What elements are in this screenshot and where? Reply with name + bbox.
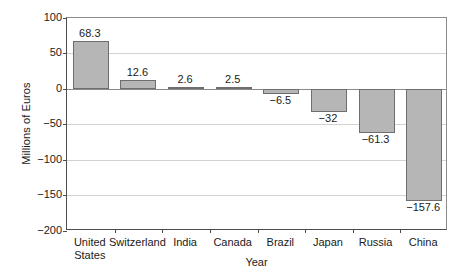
y-tick-label: 0 bbox=[26, 83, 62, 94]
x-tick-mark bbox=[400, 229, 401, 233]
bar-value-label: −157.6 bbox=[388, 201, 458, 213]
bar bbox=[406, 89, 442, 201]
x-tick-mark bbox=[115, 229, 116, 233]
x-tick-mark bbox=[162, 229, 163, 233]
plot-area bbox=[66, 17, 447, 230]
gridline bbox=[67, 53, 446, 54]
y-tick-mark bbox=[63, 124, 67, 125]
x-tick-mark bbox=[258, 229, 259, 233]
bar-value-label: −32 bbox=[293, 112, 363, 124]
y-tick-mark bbox=[63, 160, 67, 161]
x-tick-mark bbox=[305, 229, 306, 233]
y-tick-mark bbox=[63, 53, 67, 54]
y-tick-label: −200 bbox=[26, 225, 62, 236]
bar-value-label: 2.5 bbox=[198, 73, 268, 85]
gridline bbox=[67, 195, 446, 196]
y-tick-label: −150 bbox=[26, 189, 62, 200]
y-tick-label: −50 bbox=[26, 118, 62, 129]
y-tick-mark bbox=[63, 89, 67, 90]
bar-value-label: 68.3 bbox=[55, 27, 125, 39]
y-tick-mark bbox=[63, 231, 67, 232]
x-tick-mark bbox=[210, 229, 211, 233]
bar-value-label: −61.3 bbox=[341, 133, 411, 145]
x-tick-mark bbox=[353, 229, 354, 233]
bar-chart-figure: Millions of Euros 100500−50−100−150−200 … bbox=[0, 0, 465, 278]
y-tick-label: 100 bbox=[26, 12, 62, 23]
y-tick-mark bbox=[63, 18, 67, 19]
y-tick-label: 50 bbox=[26, 47, 62, 58]
bar bbox=[359, 89, 395, 133]
x-tick-label-line: China bbox=[409, 236, 438, 248]
gridline bbox=[67, 160, 446, 161]
y-tick-label: −100 bbox=[26, 154, 62, 165]
x-tick-label: China bbox=[380, 236, 465, 249]
bar bbox=[168, 87, 204, 89]
bar bbox=[311, 89, 347, 112]
x-tick-label-line: States bbox=[47, 249, 133, 262]
bar-value-label: −6.5 bbox=[245, 94, 315, 106]
bar bbox=[216, 87, 252, 89]
y-tick-mark bbox=[63, 195, 67, 196]
bar bbox=[73, 41, 109, 89]
